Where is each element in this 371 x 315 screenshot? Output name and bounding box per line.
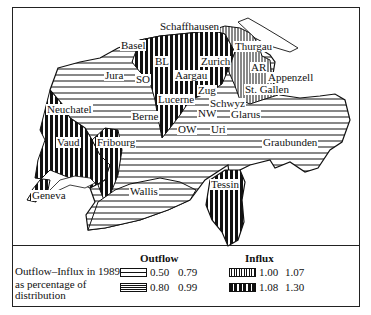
legend-influx-high-max: 1.30 xyxy=(285,281,304,293)
label-tessin: Tessin xyxy=(210,179,240,190)
legend-influx-high-min: 1.08 xyxy=(259,281,278,293)
label-stgallen: St. Gallen xyxy=(244,84,290,95)
legend-outflow-high-min: 0.80 xyxy=(150,281,169,293)
label-zug: Zug xyxy=(197,85,217,96)
label-nw: NW xyxy=(197,108,217,119)
legend-swatch-influx-low xyxy=(229,268,256,277)
legend-influx-low-max: 1.07 xyxy=(285,266,304,278)
label-vaud: Vaud xyxy=(56,137,81,148)
label-bl: BL xyxy=(154,56,170,67)
label-neuchatel: Neuchatel xyxy=(46,104,93,115)
legend-description-line1: Outflow–Influx in 1989 xyxy=(15,266,120,278)
legend-influx-low-min: 1.00 xyxy=(259,266,278,278)
label-basel: Basel xyxy=(120,40,146,51)
label-fribourg: Fribourg xyxy=(96,137,136,148)
label-aargau: Aargau xyxy=(174,70,208,81)
legend-swatch-influx-high xyxy=(229,283,256,292)
legend-description-line3: distribution xyxy=(15,290,66,302)
label-zurich: Zurich xyxy=(200,56,231,67)
label-ow: OW xyxy=(177,124,197,135)
label-so: SO xyxy=(135,74,151,85)
label-thurgau: Thurgau xyxy=(234,41,273,52)
legend-outflow-title: Outflow xyxy=(140,252,179,264)
legend-swatch-outflow-low xyxy=(120,268,147,277)
label-glarus: Glarus xyxy=(230,109,261,120)
label-graubunden: Graubunden xyxy=(262,137,318,148)
legend-outflow-high-max: 0.99 xyxy=(178,281,197,293)
label-appenzell: Appenzell xyxy=(267,72,314,83)
label-schaffhausen: Schaffhausen xyxy=(159,21,220,32)
label-ar: AR xyxy=(250,62,267,73)
legend-outflow-low-min: 0.50 xyxy=(150,266,169,278)
legend-swatch-outflow-high xyxy=(120,283,147,292)
label-jura: Jura xyxy=(104,70,124,81)
label-berne: Berne xyxy=(131,111,159,122)
label-uri: Uri xyxy=(210,124,227,135)
legend-influx-title: Influx xyxy=(245,252,274,264)
legend-outflow-low-max: 0.79 xyxy=(178,266,197,278)
label-lucerne: Lucerne xyxy=(157,94,195,105)
label-geneva: Geneva xyxy=(31,190,67,201)
label-wallis: Wallis xyxy=(129,186,159,197)
